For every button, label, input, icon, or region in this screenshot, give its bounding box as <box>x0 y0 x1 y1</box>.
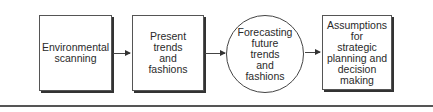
arrow-1 <box>113 53 130 54</box>
node-label: Forecasting future trends and fashions <box>238 27 293 82</box>
node-label: Environmental scanning <box>42 42 109 64</box>
arrow-2 <box>205 53 225 54</box>
node-environmental-scanning: Environmental scanning <box>39 15 112 91</box>
bottom-rule <box>0 105 433 107</box>
node-label: Present trends and fashions <box>148 31 187 75</box>
node-forecasting: Forecasting future trends and fashions <box>226 15 304 93</box>
node-assumptions: Assumptions for strategic planning and d… <box>322 15 392 90</box>
node-label: Assumptions for strategic planning and d… <box>327 20 387 86</box>
node-present-trends: Present trends and fashions <box>132 15 204 91</box>
arrow-3 <box>305 52 320 53</box>
